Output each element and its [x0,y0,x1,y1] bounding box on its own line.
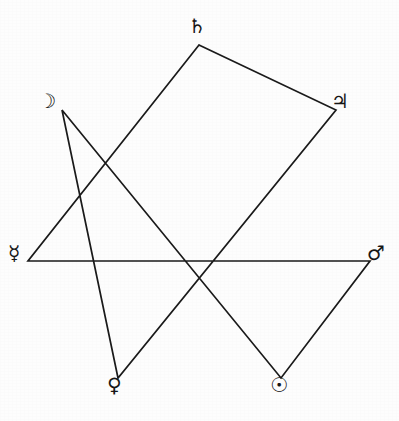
mercury-icon: ☿ [8,243,20,263]
sun-icon: ☉ [270,375,288,395]
heptagram-canvas [0,0,399,421]
heptagram-figure: ♄ ☽ ♃ ☿ ♂ ♀ ☉ [0,0,399,421]
jupiter-icon: ♃ [331,91,349,111]
saturn-icon: ♄ [188,16,206,36]
mars-icon: ♂ [367,243,385,263]
moon-icon: ☽ [38,91,56,111]
venus-icon: ♀ [107,375,122,395]
heptagram-star-path [28,45,370,378]
